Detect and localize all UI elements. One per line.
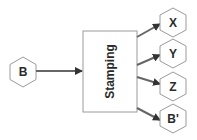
output-node-b-prime: B' bbox=[160, 104, 186, 133]
output-node-label: X bbox=[169, 16, 177, 30]
output-node-label: Z bbox=[169, 80, 176, 94]
output-node-x: X bbox=[160, 8, 186, 37]
arrow-to-z bbox=[137, 77, 160, 84]
process-box: Stamping bbox=[83, 31, 137, 112]
stamping-diagram: B Stamping X Y Z B' bbox=[0, 0, 197, 140]
process-label: Stamping bbox=[103, 44, 117, 99]
output-node-z: Z bbox=[160, 72, 186, 101]
output-node-y: Y bbox=[160, 39, 186, 68]
output-node-label: B' bbox=[167, 112, 179, 126]
arrow-to-x bbox=[137, 24, 160, 37]
arrow-to-b-prime bbox=[137, 108, 160, 120]
input-node-b: B bbox=[10, 57, 36, 87]
arrow-to-y bbox=[137, 55, 160, 65]
output-node-label: Y bbox=[169, 47, 177, 61]
input-node-label: B bbox=[19, 65, 28, 79]
